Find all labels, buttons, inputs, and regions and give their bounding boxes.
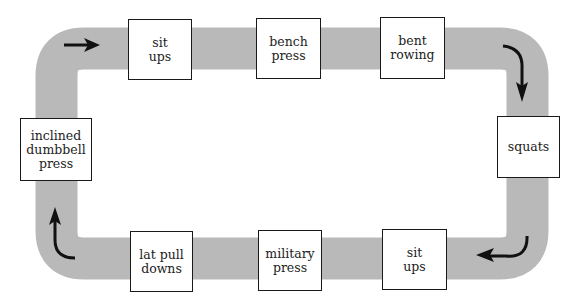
station-label: military press [265,247,314,275]
station-sit-ups-bottom: sit ups [382,229,447,290]
station-bench-press: bench press [256,18,321,79]
station-label: bench press [269,35,308,63]
station-sit-ups-top: sit ups [128,19,192,80]
station-bent-rowing: bent rowing [380,17,445,79]
station-military-press: military press [258,230,322,291]
station-label: sit ups [149,36,171,64]
station-label: lat pull downs [139,248,184,276]
station-label: bent rowing [390,34,434,62]
station-squats: squats [497,116,560,178]
station-label: squats [508,140,549,154]
station-label: inclined dumbbell press [26,129,85,171]
station-label: sit ups [403,246,425,274]
station-inclined-dumbbell-press: inclined dumbbell press [20,118,92,181]
track-loop [57,49,528,259]
station-lat-pull-downs: lat pull downs [130,231,193,292]
